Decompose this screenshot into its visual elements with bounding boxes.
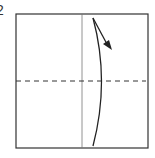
fold-diagram	[0, 0, 155, 158]
arrow-head-icon	[103, 40, 112, 50]
arrow-shaft	[93, 18, 108, 46]
curved-fold-line	[93, 18, 102, 146]
